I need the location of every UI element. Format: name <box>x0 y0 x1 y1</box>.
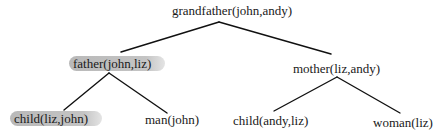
node-man-john: man(john) <box>145 112 199 127</box>
node-father: father(john,liz) <box>73 56 165 71</box>
node-woman-liz: woman(liz) <box>373 115 433 130</box>
edge-mother-child <box>274 77 337 111</box>
node-label: mother(liz,andy) <box>293 61 380 76</box>
node-mother: mother(liz,andy) <box>293 61 380 76</box>
node-label-highlighted: father(john,liz) <box>69 56 165 71</box>
node-child-liz-john: child(liz,john) <box>14 111 102 126</box>
edge-mother-woman <box>337 77 400 113</box>
edge-root-mother <box>219 22 331 54</box>
node-label: woman(liz) <box>373 115 433 130</box>
edge-father-man <box>109 73 167 113</box>
edge-father-child <box>64 73 109 110</box>
node-label: child(andy,liz) <box>233 113 308 128</box>
node-label: man(john) <box>145 112 199 127</box>
node-child-andy-liz: child(andy,liz) <box>233 113 308 128</box>
node-label-highlighted: child(liz,john) <box>10 111 102 126</box>
node-root: grandfather(john,andy) <box>172 3 292 18</box>
node-label: grandfather(john,andy) <box>172 3 292 18</box>
edge-root-father <box>121 22 219 52</box>
